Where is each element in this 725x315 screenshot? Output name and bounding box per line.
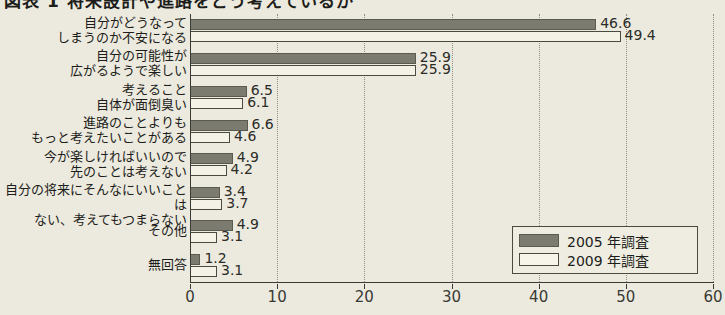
bar	[190, 98, 243, 109]
legend-label-2005: 2005 年調査	[567, 231, 649, 251]
bar	[190, 86, 247, 97]
bar	[190, 132, 230, 143]
category-label: 自分がどうなって しまうのか不安になる	[57, 15, 187, 45]
legend: 2005 年調査 2009 年調査	[512, 226, 698, 274]
bar	[190, 254, 200, 265]
category-label: 自分の将来にそんなにいいことは ない、考えてもつまらない	[0, 182, 187, 227]
bar-value-label: 3.7	[226, 198, 248, 209]
legend-swatch-2009	[519, 253, 559, 266]
bar	[190, 65, 416, 76]
category-label: 考えること 自体が面倒臭い	[96, 82, 187, 112]
bar-value-label: 4.6	[234, 131, 256, 142]
y-axis-line	[190, 14, 191, 282]
bar-value-label: 25.9	[420, 64, 451, 75]
category-label: 無回答	[148, 257, 187, 272]
gridline	[713, 14, 714, 282]
bar-value-label: 3.1	[221, 265, 243, 276]
category-label: その他	[148, 223, 187, 238]
bar	[190, 187, 220, 198]
x-axis-labels: 0102030405060(%)	[0, 288, 725, 312]
gridline	[452, 14, 453, 282]
x-tick-label: 60	[703, 288, 722, 306]
legend-label-2009: 2009 年調査	[567, 250, 649, 270]
bar	[190, 53, 416, 64]
legend-item-2009: 2009 年調査	[519, 250, 691, 269]
x-tick-label: 10	[268, 288, 287, 306]
x-axis-line	[190, 282, 714, 283]
chart-figure: 図表 1 将来設計や進路をどう考えているか 46.649.425.925.96.…	[0, 0, 725, 315]
legend-swatch-2005	[519, 234, 559, 247]
bar-value-label: 3.1	[221, 231, 243, 242]
bar	[190, 266, 217, 277]
bar	[190, 232, 217, 243]
category-label: 進路のことよりも もっと考えたいことがある	[31, 115, 187, 145]
category-label: 自分の可能性が 広がるようで楽しい	[70, 48, 187, 78]
x-tick-label: 0	[185, 288, 195, 306]
bar-value-label: 49.4	[625, 30, 656, 41]
bar-value-label: 4.2	[231, 164, 253, 175]
legend-item-2005: 2005 年調査	[519, 231, 691, 250]
bar	[190, 31, 621, 42]
category-label: 今が楽しければいいので 先のことは考えない	[44, 149, 187, 179]
x-tick-label: 50	[616, 288, 635, 306]
x-tick-label: 20	[355, 288, 374, 306]
bar	[190, 165, 227, 176]
x-tick-label: 30	[442, 288, 461, 306]
bar	[190, 199, 222, 210]
chart-title: 図表 1 将来設計や進路をどう考えているか	[4, 0, 354, 12]
bar	[190, 19, 596, 30]
bar-value-label: 6.1	[247, 97, 269, 108]
bar	[190, 153, 233, 164]
x-tick-label: 40	[529, 288, 548, 306]
